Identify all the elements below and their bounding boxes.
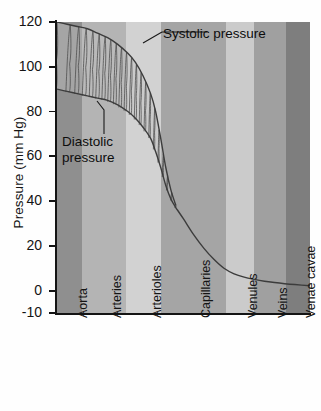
- x-label-venules: Venules: [246, 274, 260, 318]
- y-tick-label-40: 40: [2, 192, 42, 208]
- plot-area: [57, 22, 310, 313]
- y-tick-label-100: 100: [2, 58, 42, 74]
- y-tick-label-0: 0: [2, 282, 42, 298]
- x-label-venae-cavae: Venae cavae: [304, 246, 318, 318]
- diastolic-line-1: Diastolic: [62, 134, 113, 149]
- x-label-capillaries: Capillaries: [199, 260, 213, 318]
- x-label-aorta: Aorta: [76, 288, 90, 318]
- diastolic-pressure-label: Diastolic pressure: [62, 134, 115, 165]
- pressure-curves: [57, 22, 310, 313]
- diastolic-leader-line: [97, 101, 104, 134]
- blood-pressure-chart: Pressure (mm Hg) 120100806040200-10 Syst…: [0, 0, 321, 411]
- y-tick-label-20: 20: [2, 237, 42, 253]
- diastolic-line-2: pressure: [62, 150, 115, 165]
- mean-pressure-curve: [176, 208, 310, 286]
- x-label-arterioles: Arterioles: [150, 265, 164, 318]
- y-tick-label-80: 80: [2, 103, 42, 119]
- y-tick-label--10: -10: [2, 304, 42, 320]
- y-tick-label-60: 60: [2, 147, 42, 163]
- x-label-arteries: Arteries: [110, 275, 124, 318]
- systolic-pressure-label: Systolic pressure: [163, 26, 266, 42]
- x-label-veins: Veins: [276, 287, 290, 318]
- y-tick-label-120: 120: [2, 13, 42, 29]
